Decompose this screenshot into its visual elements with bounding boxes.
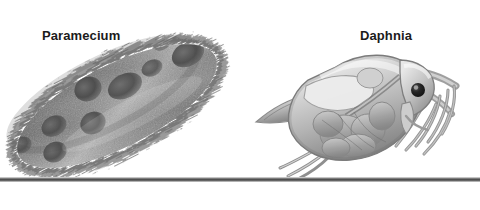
daphnia-compound-eye (411, 83, 425, 97)
label-paramecium: Paramecium (42, 28, 120, 43)
paramecium-illustration (0, 6, 242, 206)
daphnia-illustration (250, 42, 480, 182)
label-daphnia: Daphnia (360, 28, 412, 43)
figure-canvas: Paramecium Daphnia (0, 0, 480, 210)
scale-line (0, 177, 480, 182)
